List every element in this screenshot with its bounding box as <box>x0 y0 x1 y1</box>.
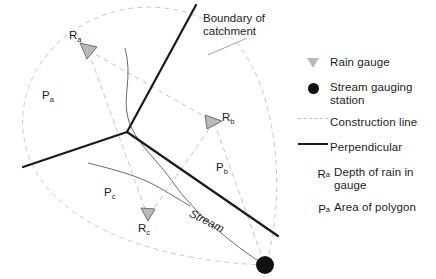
boundary-annotation-line2: catchment <box>203 25 265 38</box>
construction-lines <box>88 50 265 265</box>
boundary-leader-line <box>208 38 247 55</box>
perpendicular-north <box>127 5 196 132</box>
gauge-a-label: Ra <box>69 29 81 44</box>
legend-symbol-P-base: P <box>318 203 326 215</box>
legend-item-area-of-polygon: Pa Area of polygon <box>296 201 436 217</box>
rain-gauge-a-icon <box>80 43 97 59</box>
legend-label-area-of-polygon: Area of polygon <box>334 201 416 214</box>
polygon-c-base: P <box>104 186 112 198</box>
polygon-c-sub: c <box>112 192 116 201</box>
gauge-b-label: Rb <box>222 111 234 126</box>
boundary-of-catchment-annotation: Boundary of catchment <box>203 12 265 38</box>
perpendicular-west <box>23 132 127 167</box>
legend-symbol-R-base: R <box>318 168 326 180</box>
triangle-icon <box>296 56 330 68</box>
stream-network <box>88 48 265 265</box>
boundary-annotation-line1: Boundary of <box>203 12 265 25</box>
stream-gauging-station-icon <box>256 256 274 274</box>
legend-label-stream-gauging-station: Stream gauging station <box>330 81 426 107</box>
polygon-a-label: Pa <box>42 89 54 104</box>
legend-item-rain-gauge: Rain gauge <box>296 56 436 72</box>
legend-item-depth-of-rain: Ra Depth of rain in gauge <box>296 166 436 192</box>
rain-gauge-b-icon <box>205 115 222 129</box>
legend-item-stream-gauging-station: Stream gauging station <box>296 81 436 107</box>
gauge-b-sub: b <box>230 117 234 126</box>
rain-gauge-c-icon <box>141 208 155 221</box>
legend-symbol-R-sub: a <box>326 170 330 179</box>
gauge-c-sub: c <box>146 228 150 237</box>
construction-line-station <box>214 122 265 265</box>
legend-label-rain-gauge: Rain gauge <box>330 56 390 69</box>
construction-line-ca <box>88 50 148 217</box>
circle-icon <box>296 81 330 94</box>
legend-symbol-P-sub: a <box>326 205 330 214</box>
solid-line-icon <box>296 141 330 145</box>
legend-item-perpendicular: Perpendicular <box>296 141 436 157</box>
legend-label-depth-of-rain: Depth of rain in gauge <box>334 166 426 192</box>
polygon-c-label: Pc <box>104 186 115 201</box>
legend-symbol-R: Ra <box>296 166 334 180</box>
gauge-a-sub: a <box>77 35 81 44</box>
legend-label-perpendicular: Perpendicular <box>330 141 402 154</box>
legend-label-construction-line: Construction line <box>330 116 417 129</box>
legend-item-construction-line: Construction line <box>296 116 436 132</box>
polygon-b-base: P <box>216 161 224 173</box>
polygon-b-label: Pb <box>216 161 228 176</box>
polygon-a-sub: a <box>50 95 54 104</box>
legend: Rain gauge Stream gauging station Constr… <box>296 56 436 226</box>
legend-symbol-P: Pa <box>296 201 334 215</box>
polygon-a-base: P <box>42 89 50 101</box>
dashed-line-icon <box>296 116 330 119</box>
gauge-c-label: Rc <box>138 222 150 237</box>
polygon-b-sub: b <box>224 167 228 176</box>
